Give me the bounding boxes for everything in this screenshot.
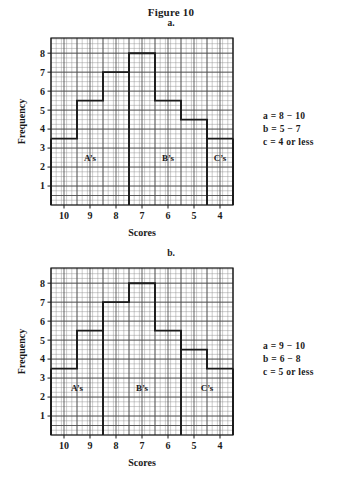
svg-text:4: 4 [218, 440, 223, 451]
legend-b-line-3: c = 5 or less [263, 366, 314, 379]
svg-text:A’s: A’s [71, 383, 83, 393]
svg-text:6: 6 [166, 440, 171, 451]
svg-text:8: 8 [114, 440, 119, 451]
svg-text:8: 8 [40, 278, 45, 289]
svg-text:4: 4 [218, 210, 223, 221]
svg-text:C’s: C’s [214, 153, 227, 163]
svg-text:2: 2 [40, 391, 45, 402]
x-axis: 10987654 [59, 435, 223, 451]
legend-b-line-2: b = 6 − 8 [263, 353, 314, 366]
svg-text:7: 7 [140, 210, 145, 221]
grid-major [51, 38, 233, 205]
svg-text:4: 4 [40, 353, 45, 364]
svg-text:5: 5 [40, 335, 45, 346]
x-axis-title: Scores [128, 227, 156, 238]
svg-text:8: 8 [40, 48, 45, 59]
svg-text:5: 5 [192, 440, 197, 451]
svg-text:10: 10 [59, 210, 69, 221]
svg-text:3: 3 [40, 372, 45, 383]
x-axis-title: Scores [128, 457, 156, 468]
legend-b: a = 9 − 10 b = 6 − 8 c = 5 or less [263, 340, 314, 379]
svg-text:C’s: C’s [201, 383, 214, 393]
y-axis: 12345678 [40, 278, 51, 422]
svg-text:B’s: B’s [136, 383, 149, 393]
svg-text:5: 5 [40, 105, 45, 116]
svg-text:1: 1 [40, 180, 45, 191]
y-axis-title: Frequency [16, 99, 27, 144]
figure-title: Figure 10 [0, 6, 342, 18]
svg-text:10: 10 [59, 440, 69, 451]
legend-b-line-1: a = 9 − 10 [263, 340, 314, 353]
svg-text:A’s: A’s [84, 153, 96, 163]
legend-a: a = 8 − 10 b = 5 − 7 c = 4 or less [263, 110, 314, 149]
svg-text:6: 6 [40, 316, 45, 327]
x-axis: 10987654 [59, 205, 223, 221]
legend-a-line-2: b = 5 − 7 [263, 123, 314, 136]
grid-major [51, 268, 233, 435]
svg-text:4: 4 [40, 123, 45, 134]
svg-text:7: 7 [140, 440, 145, 451]
svg-text:8: 8 [114, 210, 119, 221]
svg-text:B’s: B’s [162, 153, 175, 163]
svg-text:2: 2 [40, 161, 45, 172]
svg-text:6: 6 [166, 210, 171, 221]
y-axis: 12345678 [40, 48, 51, 192]
legend-a-line-3: c = 4 or less [263, 136, 314, 149]
svg-text:9: 9 [88, 440, 93, 451]
svg-text:9: 9 [88, 210, 93, 221]
legend-a-line-1: a = 8 − 10 [263, 110, 314, 123]
y-axis-title: Frequency [16, 329, 27, 374]
svg-text:3: 3 [40, 142, 45, 153]
svg-text:5: 5 [192, 210, 197, 221]
svg-text:6: 6 [40, 86, 45, 97]
svg-text:1: 1 [40, 410, 45, 421]
svg-text:7: 7 [40, 67, 45, 78]
svg-text:7: 7 [40, 297, 45, 308]
